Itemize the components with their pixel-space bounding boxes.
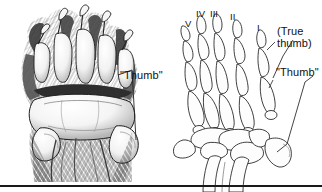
digit-label-i: I [257,22,260,33]
true-thumb-label-line1: (True [277,25,312,37]
true-thumb-leader-line [267,42,275,50]
digit-label-v: V [185,18,191,29]
pisiform-bone [173,140,195,158]
true-thumb-label: (True thumb) [277,25,312,49]
digit-label-ii: II [230,11,235,22]
figure-container: "Thumb" [0,0,322,192]
digit-ii-bones [233,20,254,131]
paw-thumb-label: "Thumb" [120,70,163,82]
digit-i-true-thumb-bones [257,30,275,113]
skeleton-thumb-label: "Thumb" [276,67,319,79]
digit-label-iii: III [210,8,218,19]
true-thumb-label-line2: thumb) [277,37,312,49]
panda-paw-panel: "Thumb" [0,0,165,192]
panda-paw-illustration [0,0,165,192]
carpal-bones [191,128,270,164]
bottom-divider-rule [0,185,322,187]
digit-label-iv: IV [196,8,205,19]
